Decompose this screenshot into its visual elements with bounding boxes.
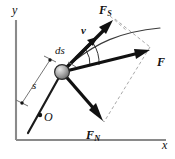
construction-line-fs-to-f <box>115 19 150 47</box>
construction-line-fs-stub <box>110 16 126 30</box>
force-resultant-arrowhead <box>134 49 150 59</box>
velocity-label: v <box>81 25 86 36</box>
arc-element-label: ds <box>55 45 65 56</box>
force-resultant-symbol: F <box>157 55 165 69</box>
arc-length-endpoint-dot-upper <box>48 58 51 61</box>
x-axis-label: x <box>162 139 167 151</box>
force-resultant-label: F <box>157 56 165 68</box>
y-axis-label: y <box>12 4 17 16</box>
force-tangential-label: FS <box>99 4 112 18</box>
axes-group <box>16 20 166 140</box>
arc-length-label: s <box>32 80 36 91</box>
force-normal-vector <box>62 72 103 121</box>
force-normal-label: FN <box>86 129 100 143</box>
figure-canvas: y x FS F FN v ds s O <box>0 0 175 159</box>
origin-point-dot <box>38 113 42 117</box>
particle-group <box>55 65 70 80</box>
force-normal-subscript: N <box>94 134 100 143</box>
particle-sphere <box>55 65 70 80</box>
origin-point-label: O <box>44 111 53 123</box>
arc-length-endpoint-dot-lower <box>20 101 23 104</box>
force-normal-symbol: F <box>86 128 94 142</box>
force-tangential-symbol: F <box>99 3 107 17</box>
force-tangential-subscript: S <box>107 9 112 18</box>
